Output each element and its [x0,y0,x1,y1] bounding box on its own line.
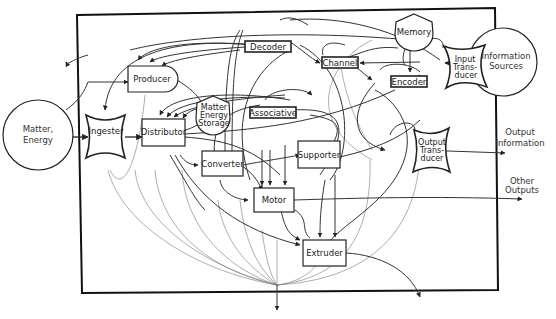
svg-text:Memory: Memory [397,27,432,37]
subsystem-supporter: Supporter [298,141,341,168]
svg-text:Channel: Channel [323,58,358,68]
svg-text:Associative: Associative [249,108,297,118]
subsystem-input-transducer: Input Trans- ducer [444,45,487,88]
svg-text:Outputs: Outputs [505,185,540,195]
subsystem-producer: Producer [128,66,178,92]
other-outputs-label: Other Outputs [505,176,540,195]
other-outputs-arrow [294,197,522,200]
svg-text:Matter,: Matter, [23,124,54,134]
subsystem-distributor: Distributor [141,119,187,146]
svg-text:Extruder: Extruder [306,248,343,258]
svg-text:Decoder: Decoder [250,42,286,52]
matter-energy-source: Matter, Energy [3,100,73,170]
subsystem-memory: Memory [395,14,433,51]
svg-text:Information: Information [481,51,530,61]
svg-text:ducer: ducer [455,71,478,80]
svg-text:ducer: ducer [421,154,444,163]
svg-text:Converter: Converter [201,159,244,169]
subsystem-ingester: Ingester [86,115,125,158]
svg-text:Output: Output [505,127,535,137]
svg-text:Storage: Storage [198,119,229,128]
subsystem-channel: Channel [322,57,358,68]
living-systems-diagram: Matter, Energy Information Sources Outpu… [0,0,556,319]
svg-text:Motor: Motor [262,195,287,205]
subsystem-extruder: Extruder [303,240,346,266]
svg-text:Encoder: Encoder [392,77,427,87]
subsystem-output-transducer: Output Trans- ducer [413,128,450,172]
svg-text:Supporter: Supporter [298,150,341,160]
subsystem-decoder: Decoder [245,41,291,52]
subsystem-encoder: Encoder [391,76,427,87]
svg-text:Energy: Energy [23,135,53,145]
svg-text:Sources: Sources [489,61,523,71]
subsystem-motor: Motor [254,188,294,212]
output-information-label: Output Information [495,127,544,148]
svg-text:Ingester: Ingester [88,126,124,136]
svg-text:Distributor: Distributor [141,127,187,137]
subsystem-associative: Associative [249,107,297,118]
subsystem-converter: Converter [201,151,244,176]
svg-text:Information: Information [495,138,544,148]
subsystem-matter-energy-storage: Matter Energy Storage [196,96,230,135]
svg-text:Producer: Producer [133,74,171,84]
